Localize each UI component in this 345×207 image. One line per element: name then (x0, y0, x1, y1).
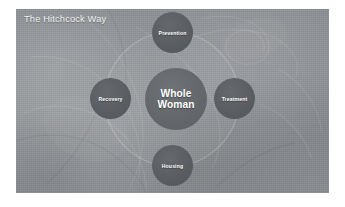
diagram-node-center-whole-woman[interactable]: Whole Woman (145, 68, 207, 130)
diagram-center-label-line1: Whole (160, 88, 191, 99)
diagram-node-treatment[interactable]: Treatment (214, 78, 255, 119)
diagram-center-label: Whole Woman (157, 88, 194, 111)
diagram-node-prevention[interactable]: Prevention (152, 12, 193, 53)
diagram-node-label: Prevention (157, 30, 189, 36)
diagram-node-housing[interactable]: Housing (152, 145, 193, 186)
screenshot-canvas: The Hitchcock Way Prevention Treatment H… (0, 0, 345, 207)
diagram-node-label: Recovery (96, 96, 124, 102)
whole-woman-diagram: Prevention Treatment Housing Recovery Wh… (16, 9, 329, 193)
diagram-node-recovery[interactable]: Recovery (90, 78, 131, 119)
diagram-node-label: Housing (160, 163, 185, 169)
presentation-slide: The Hitchcock Way Prevention Treatment H… (16, 9, 329, 193)
diagram-center-label-line2: Woman (157, 99, 194, 110)
diagram-node-label: Treatment (220, 96, 250, 102)
